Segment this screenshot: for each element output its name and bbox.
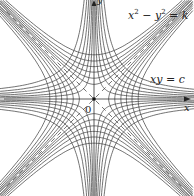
hyperbola-diagram <box>0 0 194 196</box>
hyperbola-family-x2-minus-y2 <box>0 0 193 196</box>
origin-label: 0 <box>85 105 91 115</box>
origin-point <box>92 97 96 101</box>
eq1-k: = k <box>169 9 188 22</box>
y-axis-label: y <box>97 0 103 5</box>
label-x2-minus-y2-equals-k: x2 − y2 = k <box>128 9 188 21</box>
eq1-minus-y: − y <box>142 9 161 22</box>
x-axis-arrow-icon <box>184 97 191 102</box>
x-axis-label: x <box>184 103 190 113</box>
label-xy-equals-c: xy = c <box>150 74 185 85</box>
y-axis-arrow-icon <box>92 0 97 6</box>
